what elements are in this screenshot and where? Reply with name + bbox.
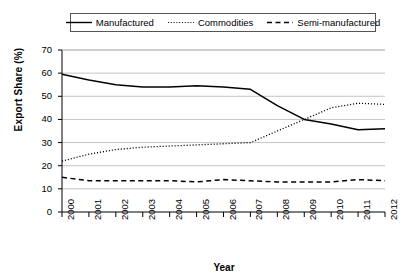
- x-tick-label: 2011: [362, 200, 372, 220]
- y-tick-label: 30: [26, 138, 52, 148]
- x-tick-label: 2009: [308, 199, 318, 220]
- y-tick-label: 40: [26, 114, 52, 124]
- x-tick-label: 2004: [174, 199, 184, 220]
- y-tick-label: 20: [26, 161, 52, 171]
- x-tick-label: 2012: [389, 199, 399, 220]
- x-tick-label: 2010: [335, 199, 345, 220]
- plot-area: [0, 0, 404, 279]
- series-line: [62, 177, 385, 182]
- series-line: [62, 103, 385, 161]
- export-share-line-chart: Manufactured Commodities Semi-manufactur…: [0, 0, 404, 279]
- x-tick-label: 2008: [281, 199, 291, 220]
- y-tick-label: 0: [26, 207, 52, 217]
- x-tick-label: 2006: [228, 199, 238, 220]
- y-tick-label: 50: [26, 91, 52, 101]
- y-tick-label: 60: [26, 68, 52, 78]
- y-tick-label: 10: [26, 184, 52, 194]
- series-line: [62, 74, 385, 130]
- y-tick-label: 70: [26, 45, 52, 55]
- x-tick-label: 2003: [147, 199, 157, 220]
- x-tick-label: 2000: [66, 199, 76, 220]
- x-tick-label: 2002: [120, 199, 130, 220]
- x-tick-label: 2001: [93, 199, 103, 220]
- x-tick-label: 2007: [254, 199, 264, 220]
- x-tick-label: 2005: [201, 199, 211, 220]
